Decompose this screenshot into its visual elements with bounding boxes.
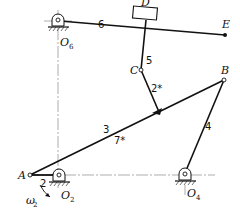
label-A: A (17, 169, 26, 182)
label-O4: O (187, 187, 196, 200)
label-link-5: 5 (146, 55, 152, 66)
joint-B (222, 78, 226, 82)
label-B: B (220, 64, 229, 77)
label-link-6: 6 (98, 19, 104, 30)
label-C: C (130, 64, 139, 77)
label-O2: O (61, 189, 70, 202)
ground-pivot-O2 (49, 169, 70, 186)
link-3 (30, 80, 224, 175)
joint-C (139, 68, 143, 72)
label-link-2star: 2* (151, 83, 162, 94)
label-O2-sub: 2 (70, 196, 74, 204)
label-O4-sub: 4 (196, 194, 201, 202)
label-D: D (140, 0, 150, 9)
ground-pivot-O6 (48, 14, 69, 31)
label-O6-sub: 6 (69, 43, 74, 51)
mechanism-diagram: A B C D E O 6 O 2 O 4 6 5 2* 3 7* 4 2 ω … (0, 0, 240, 215)
label-omega-sub: 2 (33, 201, 37, 209)
label-link-7star: 7* (114, 135, 125, 146)
label-link-3: 3 (103, 124, 109, 135)
label-link-4: 4 (205, 121, 211, 132)
label-link-2: 2 (40, 178, 46, 189)
joint-A (28, 173, 32, 177)
label-O6: O (60, 36, 69, 49)
link-6 (60, 21, 225, 35)
point-E (223, 33, 227, 37)
label-E: E (221, 18, 230, 31)
